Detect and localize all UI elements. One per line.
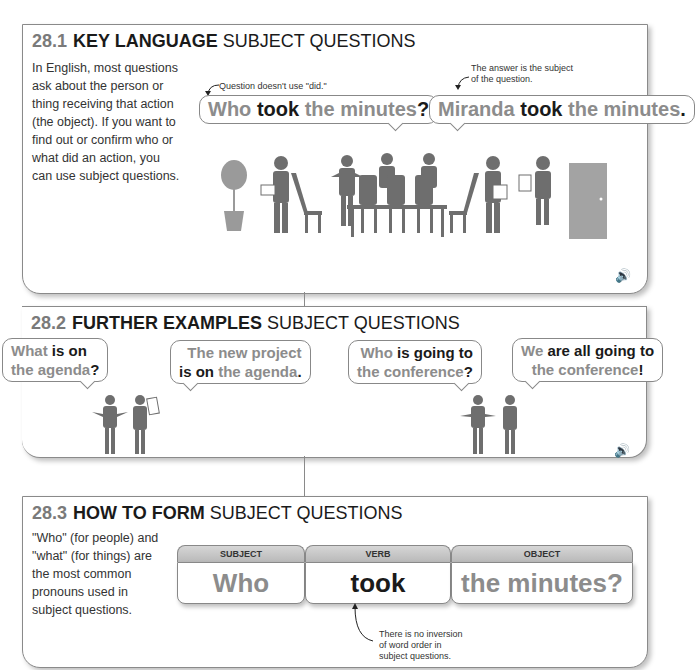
annotation-right: The answer is the subject of the questio… [471, 63, 573, 85]
bubble-text: the minutes [562, 98, 680, 120]
speech-bubble-question: What is on the agenda? [2, 338, 108, 382]
person-icon [519, 156, 551, 225]
bubble-verb: took [520, 98, 562, 120]
chair-icon [291, 173, 322, 233]
bubble-text: We [521, 342, 547, 359]
bubble-text: the agenda [11, 361, 90, 378]
section-heading: 28.3HOW TO FORM SUBJECT QUESTIONS [32, 503, 402, 524]
annotation-line: subject questions. [379, 651, 463, 662]
annotation-left: Question doesn't use "did." [219, 81, 327, 92]
speech-bubble-question: Who took the minutes? [199, 95, 438, 124]
person-icon [133, 395, 159, 454]
annotation-line: The answer is the subject [471, 63, 573, 74]
section-number: 28.1 [32, 31, 67, 51]
speech-bubble-answer: We are all going to the conference! [512, 338, 663, 382]
section-number: 28.2 [31, 313, 66, 333]
section-heading: 28.2FURTHER EXAMPLES SUBJECT QUESTIONS [31, 313, 460, 334]
puzzle-piece-object: OBJECT the minutes? [451, 545, 633, 605]
piece-word: took [305, 562, 451, 604]
bubble-text: Who [208, 98, 257, 120]
puzzle-piece-verb: VERB took [305, 545, 451, 605]
section-how-to-form: 28.3HOW TO FORM SUBJECT QUESTIONS "Who" … [22, 496, 648, 668]
piece-word: the minutes? [451, 562, 633, 604]
two-people-illustration [90, 394, 180, 458]
bubble-verb: took [257, 98, 299, 120]
person-icon [503, 395, 517, 454]
speaker-icon[interactable]: 🔊 [614, 443, 630, 458]
arrow-icon [349, 601, 375, 645]
section-key: FURTHER EXAMPLES [72, 313, 262, 333]
bubble-punct: ? [464, 363, 473, 380]
section-key: HOW TO FORM [73, 503, 205, 523]
speech-bubble-answer: Miranda took the minutes. [429, 95, 695, 124]
section-heading: 28.1KEY LANGUAGE SUBJECT QUESTIONS [32, 31, 415, 52]
bubble-verb: is on [179, 363, 214, 380]
section-key-language: 28.1KEY LANGUAGE SUBJECT QUESTIONS In En… [22, 24, 648, 294]
meeting-illustration [209, 153, 629, 243]
bubble-text: What [11, 342, 52, 359]
section-description: In English, most questions ask about the… [32, 59, 182, 185]
person-icon [331, 155, 363, 226]
plant-icon [221, 160, 247, 231]
person-icon [261, 156, 289, 233]
bubble-text: the conference [357, 363, 464, 380]
bubble-verb: are all going to [547, 342, 654, 359]
annotation-line: of word order in [379, 640, 463, 651]
bubble-text: Who [360, 344, 397, 361]
piece-label: VERB [305, 545, 451, 562]
piece-label: SUBJECT [177, 545, 305, 562]
bubble-text: The new project [179, 343, 302, 362]
chair-icon [347, 175, 447, 237]
section-key: KEY LANGUAGE [73, 31, 218, 51]
speech-bubble-question: Who is going to the conference? [348, 340, 482, 384]
annotation-line: There is no inversion [379, 629, 463, 640]
chair-icon [449, 173, 479, 233]
bubble-text: the conference [532, 361, 639, 378]
section-number: 28.3 [32, 503, 67, 523]
door-icon [569, 163, 607, 239]
section-topic: SUBJECT QUESTIONS [210, 503, 403, 523]
bubble-punct: ! [638, 361, 643, 378]
speaker-icon[interactable]: 🔊 [615, 268, 631, 283]
section-topic: SUBJECT QUESTIONS [223, 31, 416, 51]
bubble-punct: ? [417, 98, 429, 120]
bubble-punct: . [297, 363, 301, 380]
bubble-text: the minutes [299, 98, 417, 120]
speech-bubble-answer: The new project is on the agenda. [170, 340, 311, 384]
bubble-punct: . [680, 98, 686, 120]
piece-label: OBJECT [451, 545, 633, 562]
puzzle-piece-subject: SUBJECT Who [177, 545, 305, 605]
bubble-punct: ? [90, 361, 99, 378]
annotation-line: of the question. [471, 74, 573, 85]
person-icon [460, 395, 496, 454]
bubble-text: Miranda [438, 98, 520, 120]
annotation-note: There is no inversion of word order in s… [379, 629, 463, 662]
bubble-text: the agenda [214, 363, 297, 380]
section-topic: SUBJECT QUESTIONS [267, 313, 460, 333]
bubble-verb: is on [52, 342, 87, 359]
person-icon [92, 395, 128, 454]
connector-line [304, 292, 305, 306]
section-description: "Who" (for people) and "what" (for thing… [32, 529, 162, 619]
connector-line [304, 456, 305, 496]
arrow-icon [451, 73, 471, 91]
bubble-verb: is going to [397, 344, 473, 361]
piece-word: Who [177, 562, 305, 604]
person-icon [485, 156, 507, 233]
two-people-illustration [458, 394, 538, 458]
